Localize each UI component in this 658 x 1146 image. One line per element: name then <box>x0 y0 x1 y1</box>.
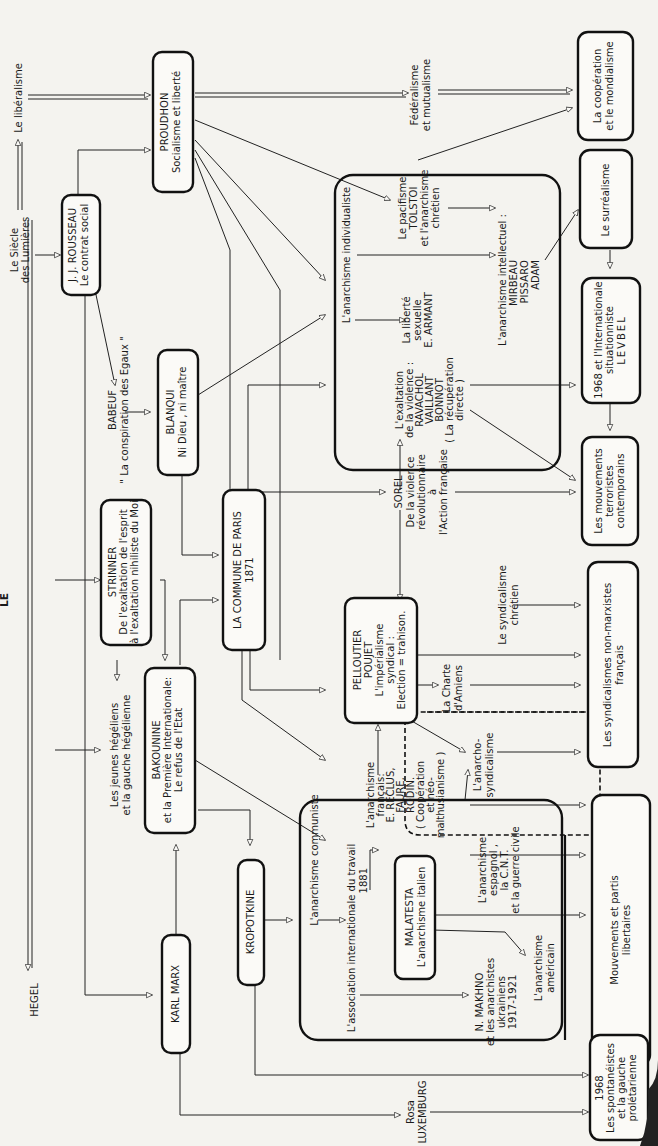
svg-text:1917-1921: 1917-1921 <box>507 975 518 1030</box>
svg-text:malthusianisme ): malthusianisme ) <box>435 752 446 839</box>
svg-text:Socialisme et liberté: Socialisme et liberté <box>171 71 182 173</box>
svg-text:et la gauche hégélienne: et la gauche hégélienne <box>121 695 132 816</box>
svg-text:KROPOTKINE: KROPOTKINE <box>245 890 256 955</box>
svg-text:De l'exaltation de l'esprit: De l'exaltation de l'esprit <box>118 509 129 635</box>
label-rousseau[interactable]: J. J. ROUSSEAU Le contrat social <box>67 204 90 286</box>
svg-text:directe ): directe ) <box>454 379 465 421</box>
svg-text:STRINNER: STRINNER <box>107 547 118 598</box>
svg-text:J. J. ROUSSEAU: J. J. ROUSSEAU <box>67 208 78 283</box>
svg-text:N. MAKHNO: N. MAKHNO <box>474 973 485 1032</box>
svg-text:" La conspiration des Egaux ": " La conspiration des Egaux " <box>119 336 130 483</box>
svg-text:MIRBEAU: MIRBEAU <box>508 260 519 306</box>
svg-text:LE: LE <box>0 593 10 607</box>
svg-text:1871: 1871 <box>244 557 255 582</box>
svg-text:PROUDHON: PROUDHON <box>159 93 170 152</box>
svg-text:LEVBEL: LEVBEL <box>616 315 627 364</box>
svg-text:et les anarchistes: et les anarchistes <box>485 958 496 1046</box>
svg-text:Le syndicalisme: Le syndicalisme <box>497 565 508 645</box>
label-siecle: Le Siècle des Lumières <box>9 217 31 284</box>
label-anarchisme-americain: L'anarchisme américain <box>533 935 556 1002</box>
svg-text:L'anarchisme: L'anarchisme <box>533 935 544 1002</box>
svg-text:et la Première Internationale:: et la Première Internationale: <box>162 677 173 823</box>
box-syndicalismes[interactable] <box>588 562 638 767</box>
svg-text:La liberté: La liberté <box>401 296 412 343</box>
svg-text:ADAM: ADAM <box>530 260 541 290</box>
svg-text:syndical :: syndical : <box>385 636 396 684</box>
svg-text:KARL MARX: KARL MARX <box>170 965 181 1023</box>
svg-text:terroristes: terroristes <box>604 465 615 516</box>
label-liberalisme: Le libéralisme <box>13 63 24 133</box>
svg-text:TOLSTOI: TOLSTOI <box>408 187 419 231</box>
svg-text:Le pacifisme: Le pacifisme <box>397 177 408 240</box>
label-karl-marx[interactable]: KARL MARX <box>170 965 181 1023</box>
svg-text:L'association internationale d: L'association internationale du travail <box>346 844 357 1032</box>
label-anarchisme-espagnol: L'anarchisme espagnol , la C.N.T. et la … <box>477 826 521 913</box>
label-association-internationale: L'association internationale du travail … <box>346 844 369 1032</box>
label-individualiste: L'anarchisme individualiste <box>341 187 352 323</box>
label-surrealisme[interactable]: Le surréalisme <box>600 163 611 236</box>
svg-text:MALATESTA: MALATESTA <box>404 888 415 946</box>
svg-text:BABEUF: BABEUF <box>107 390 118 430</box>
svg-text:Election = trahison.: Election = trahison. <box>396 611 407 710</box>
svg-text:Les spontanéistes: Les spontanéistes <box>605 1043 616 1133</box>
svg-text:La coopération: La coopération <box>592 49 603 124</box>
svg-text:espagnol ,: espagnol , <box>488 844 499 896</box>
svg-text:Fédéralisme: Fédéralisme <box>409 65 420 126</box>
label-anarchisme-communiste: L'anarchisme communiste <box>309 794 320 926</box>
svg-text:1968: 1968 <box>594 1075 605 1100</box>
svg-text:et la guerre civile: et la guerre civile <box>510 826 521 913</box>
svg-text:et mutualisme: et mutualisme <box>421 59 432 131</box>
svg-text:L'anarchisme individualiste: L'anarchisme individualiste <box>341 187 352 323</box>
svg-text:syndicalisme: syndicalisme <box>484 733 495 798</box>
svg-text:LA COMMUNE DE PARIS: LA COMMUNE DE PARIS <box>232 511 243 629</box>
svg-text:LUXEMBURG: LUXEMBURG <box>417 1080 428 1143</box>
label-liberte-sexuelle: La liberté sexuelle E. ARMANT <box>401 291 434 347</box>
label-federalisme: Fédéralisme et mutualisme <box>409 59 432 131</box>
svg-text:Le Siècle: Le Siècle <box>9 228 20 272</box>
svg-text:L'anarchisme: L'anarchisme <box>477 837 488 904</box>
label-jeunes-hegeliens: Les jeunes hégéliens et la gauche hégéli… <box>109 695 132 816</box>
anarchism-genealogy-diagram: LE HEGEL Le Siècle des Lumières Le libér… <box>0 0 658 1146</box>
svg-text:américain: américain <box>545 943 556 993</box>
svg-text:L'anarcho-: L'anarcho- <box>472 738 483 791</box>
svg-text:HEGEL: HEGEL <box>29 983 40 1017</box>
svg-text:contemporains: contemporains <box>615 454 626 529</box>
svg-text:1968 et l'Internationale: 1968 et l'Internationale <box>593 281 604 398</box>
label-anarcho-syndicalisme: L'anarcho- syndicalisme <box>472 733 495 798</box>
svg-text:Les mouvements: Les mouvements <box>593 448 604 534</box>
svg-text:PISSARO: PISSARO <box>519 260 530 304</box>
svg-text:et le mondialisme: et le mondialisme <box>604 41 615 130</box>
svg-text:L'anarchisme intellectuel :: L'anarchisme intellectuel : <box>497 214 508 346</box>
svg-text:BLANQUI: BLANQUI <box>165 389 176 434</box>
label-kropotkine[interactable]: KROPOTKINE <box>245 890 256 955</box>
svg-text:des Lumières: des Lumières <box>20 217 31 284</box>
box-malatesta[interactable] <box>395 856 435 979</box>
svg-text:chrétien: chrétien <box>430 187 441 228</box>
svg-text:Les jeunes hégéliens: Les jeunes hégéliens <box>109 703 120 807</box>
svg-text:la C.N.T.: la C.N.T. <box>499 849 510 890</box>
svg-text:Le surréalisme: Le surréalisme <box>600 163 611 236</box>
svg-text:BAKOUNINE: BAKOUNINE <box>151 720 162 779</box>
svg-text:situationniste: situationniste <box>604 306 615 374</box>
label-charte-amiens: La Charte d'Amiens <box>441 664 464 713</box>
svg-text:Ni Dieu , ni maître: Ni Dieu , ni maître <box>177 367 188 458</box>
label-babeuf: BABEUF " La conspiration des Egaux " <box>107 336 130 483</box>
label-pacifisme: Le pacifisme TOLSTOI et l'anarchisme chr… <box>397 170 441 247</box>
svg-text:et la gauche: et la gauche <box>616 1057 627 1119</box>
svg-text:La Charte: La Charte <box>441 664 452 713</box>
svg-text:d'Amiens: d'Amiens <box>453 665 464 711</box>
svg-text:révolutionnaire: révolutionnaire <box>416 454 427 530</box>
label-makhno: N. MAKHNO et les anarchistes ukrainiens … <box>474 958 518 1046</box>
svg-text:POUJET: POUJET <box>363 641 374 678</box>
svg-text:chrétien: chrétien <box>509 584 520 625</box>
label-hegel: HEGEL <box>29 983 40 1017</box>
svg-text:L'anarchisme italien: L'anarchisme italien <box>416 867 427 968</box>
svg-text:Mouvements et partis: Mouvements et partis <box>609 875 620 984</box>
label-cooperation[interactable]: La coopération et le mondialisme <box>592 41 615 130</box>
title-fragment: LE <box>0 593 10 607</box>
svg-text:SOREL: SOREL <box>393 475 404 508</box>
label-anarchisme-intellectuel: L'anarchisme intellectuel : MIRBEAU PISS… <box>497 214 541 346</box>
svg-text:Le libéralisme: Le libéralisme <box>13 63 24 133</box>
svg-text:à: à <box>427 489 438 495</box>
svg-text:Rosa: Rosa <box>405 1100 416 1124</box>
